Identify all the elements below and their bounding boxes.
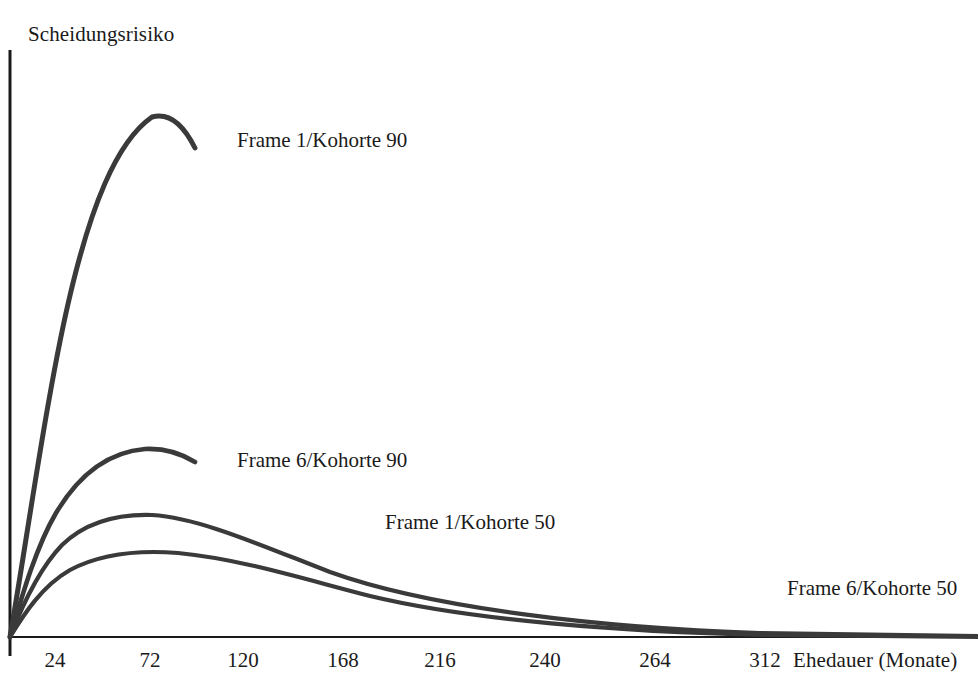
y-axis-title: Scheidungsrisiko: [28, 22, 174, 47]
x-tick-label: 264: [639, 648, 671, 673]
x-axis-title: Ehedauer (Monate): [793, 648, 957, 673]
x-tick-label: 168: [327, 648, 359, 673]
series-label: Frame 6/Kohorte 90: [237, 448, 407, 473]
x-tick-label: 24: [45, 648, 66, 673]
series-label: Frame 1/Kohorte 50: [385, 510, 555, 535]
x-tick-label: 312: [749, 648, 781, 673]
series-label: Frame 1/Kohorte 90: [237, 128, 407, 153]
chart-figure: Scheidungsrisiko Ehedauer (Monate) 24721…: [0, 0, 978, 683]
x-tick-label: 72: [140, 648, 161, 673]
x-tick-label: 216: [424, 648, 456, 673]
x-tick-label: 120: [227, 648, 259, 673]
x-tick-label: 240: [529, 648, 561, 673]
series-label: Frame 6/Kohorte 50: [787, 576, 957, 601]
